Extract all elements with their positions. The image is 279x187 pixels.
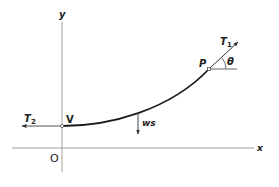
angle-label: θ	[227, 56, 234, 67]
weight-label: ws	[142, 118, 156, 128]
y-axis-label: y	[59, 9, 66, 20]
svg-text:1: 1	[227, 41, 232, 49]
point-p-label: P	[199, 58, 207, 69]
tension-left-label: T 2	[24, 113, 36, 126]
tension-right-label: T 1	[220, 36, 232, 49]
origin-label: O	[50, 152, 59, 165]
catenary-diagram: y x O V T 2 P T 1 θ ws	[0, 0, 279, 187]
vertex-label: V	[66, 114, 74, 125]
x-axis-label: x	[256, 143, 264, 153]
angle-arc	[222, 58, 226, 69]
svg-text:2: 2	[31, 118, 36, 126]
cable-curve	[62, 69, 209, 126]
